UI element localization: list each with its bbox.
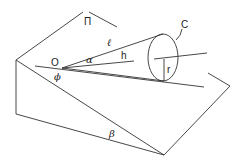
cone-on-incline-diagram: Π O ℓ α h C r ϕ β [0, 0, 243, 167]
radius-label: r [167, 64, 171, 75]
base-circle-label: C [181, 19, 188, 30]
plane-top-edge [89, 12, 117, 27]
phi-label: ϕ [54, 71, 61, 82]
origin-label: O [51, 57, 59, 68]
incline-diagonal [16, 60, 164, 155]
height-label: h [121, 50, 127, 61]
c-leader-line [176, 29, 182, 40]
incline-outline [16, 12, 230, 155]
cone-base-ellipse [148, 34, 178, 81]
plane-label: Π [84, 16, 91, 27]
slant-label: ℓ [107, 37, 111, 48]
beta-label: β [108, 128, 115, 139]
cone-axis [154, 53, 207, 59]
alpha-label: α [86, 54, 93, 65]
bottom-generator [62, 68, 164, 81]
